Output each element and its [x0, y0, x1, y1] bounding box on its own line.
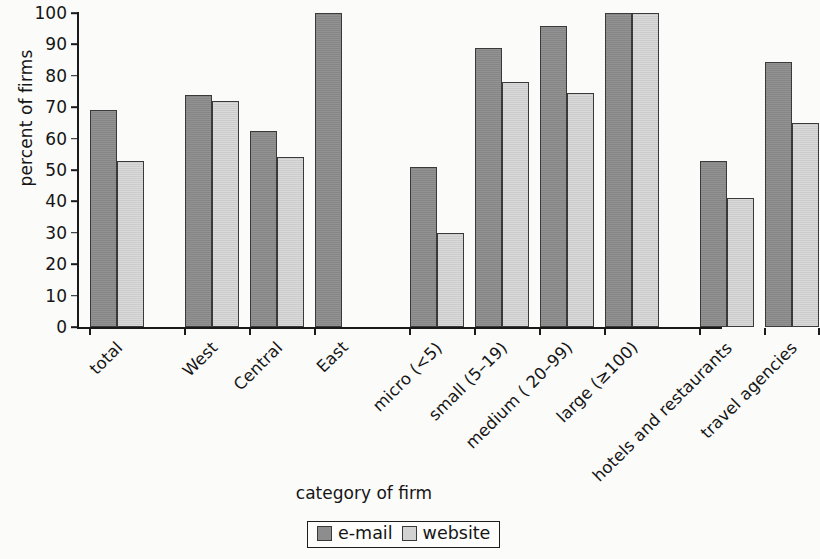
bar-email	[185, 95, 212, 327]
y-tick-mark	[71, 263, 78, 265]
y-tick-label: 50	[23, 162, 67, 179]
y-tick-label: 90	[23, 36, 67, 53]
bar-email	[315, 13, 342, 327]
chart-legend: e-mail website	[307, 521, 500, 548]
x-tick-mark	[409, 328, 411, 335]
y-tick-mark	[71, 295, 78, 297]
x-tick-mark	[699, 328, 701, 335]
y-tick-mark	[71, 12, 78, 14]
y-tick-label: 20	[23, 256, 67, 273]
y-tick-label: 60	[23, 130, 67, 147]
x-tick-mark	[474, 328, 476, 335]
bar-email	[410, 167, 437, 327]
x-tick-mark	[818, 328, 820, 335]
y-tick-label: 10	[23, 287, 67, 304]
x-tick-mark	[249, 328, 251, 335]
y-tick-mark	[71, 232, 78, 234]
bar-email	[250, 131, 277, 327]
x-tick-mark	[764, 328, 766, 335]
legend-label-website: website	[423, 525, 491, 543]
y-tick-label: 70	[23, 99, 67, 116]
legend-swatch-email-icon	[317, 526, 332, 541]
legend-item-email: e-mail	[317, 525, 393, 543]
x-tick-mark	[184, 328, 186, 335]
bar-website	[212, 101, 239, 327]
bar-email	[475, 48, 502, 327]
bar-website	[792, 123, 819, 327]
bar-website	[277, 157, 304, 327]
y-tick-label: 40	[23, 193, 67, 210]
y-tick-mark	[71, 326, 78, 328]
x-tick-label: West	[179, 338, 221, 380]
x-tick-mark	[539, 328, 541, 335]
x-axis-title: category of firm	[0, 483, 728, 503]
y-tick-label: 80	[23, 67, 67, 84]
bar-website	[117, 161, 144, 327]
bar-website	[632, 13, 659, 327]
bar-email	[540, 26, 567, 327]
x-axis-line	[77, 327, 722, 329]
bar-website	[502, 82, 529, 327]
y-tick-mark	[71, 44, 78, 46]
y-tick-label: 30	[23, 224, 67, 241]
y-tick-mark	[71, 169, 78, 171]
bar-email	[90, 110, 117, 327]
bar-website	[567, 93, 594, 327]
y-tick-mark	[71, 138, 78, 140]
legend-item-website: website	[402, 525, 491, 543]
x-tick-label: total	[86, 338, 126, 378]
x-tick-mark	[314, 328, 316, 335]
legend-label-email: e-mail	[338, 525, 393, 543]
x-tick-label: East	[313, 338, 352, 377]
bar-email	[765, 62, 792, 327]
x-tick-mark	[604, 328, 606, 335]
x-tick-mark	[89, 328, 91, 335]
y-tick-mark	[71, 75, 78, 77]
y-tick-mark	[71, 201, 78, 203]
bar-website	[437, 233, 464, 327]
y-tick-mark	[71, 106, 78, 108]
bar-email	[605, 13, 632, 327]
bar-email	[700, 161, 727, 327]
y-tick-label: 0	[23, 319, 67, 336]
y-tick-label: 100	[23, 5, 67, 22]
x-tick-label: Central	[230, 338, 286, 394]
bar-website	[727, 198, 754, 327]
legend-swatch-website-icon	[402, 526, 417, 541]
